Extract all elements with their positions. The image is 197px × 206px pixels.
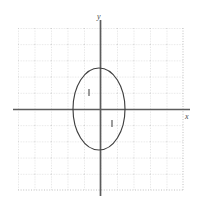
coordinate-plane-svg — [0, 0, 197, 206]
graph-figure: y x — [0, 0, 197, 206]
y-axis-label: y — [97, 13, 101, 21]
x-axis-label: x — [185, 113, 189, 121]
